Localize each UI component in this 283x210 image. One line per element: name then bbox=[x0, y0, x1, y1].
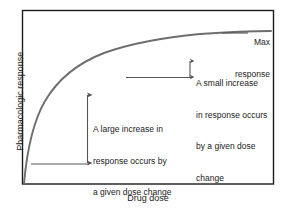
low-dose-annotation-line-2: response occurs by bbox=[93, 156, 171, 167]
low-dose-annotation-line-3: a given dose change bbox=[93, 187, 171, 198]
high-dose-annotation-line-1: A small increase bbox=[196, 78, 267, 89]
max-response-line-1: Max bbox=[178, 37, 270, 48]
high-dose-annotation-line-3: by a given dose bbox=[196, 141, 267, 152]
high-dose-annotation-line-4: change bbox=[196, 173, 267, 184]
figure-container: Pharmacologic response Drug dose Max res… bbox=[0, 0, 283, 210]
high-dose-annotation-line-2: in response occurs bbox=[196, 110, 267, 121]
high-dose-annotation-text: A small increase in response occurs by a… bbox=[196, 57, 267, 204]
low-dose-annotation-line-1: A large increase in bbox=[93, 124, 171, 135]
low-dose-annotation-text: A large increase in response occurs by a… bbox=[93, 103, 171, 210]
y-axis-title: Pharmacologic response bbox=[15, 31, 26, 171]
